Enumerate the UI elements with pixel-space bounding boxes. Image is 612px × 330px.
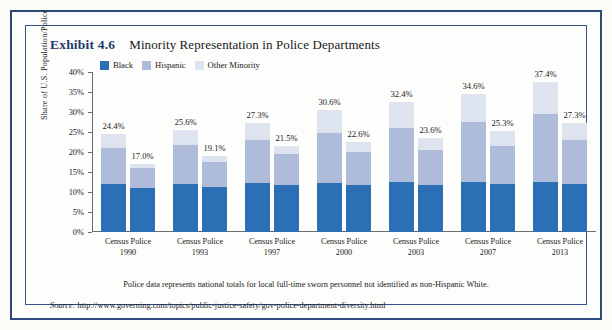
bar-census-2013[interactable] (533, 82, 558, 232)
bar-value-label: 25.3% (491, 118, 513, 128)
legend-swatch-icon (100, 61, 109, 70)
bar-value-label: 19.1% (203, 143, 225, 153)
exhibit-title: Minority Representation in Police Depart… (129, 37, 380, 52)
y-axis-tick-label: 5% (46, 208, 84, 217)
bar-segment-hispanic (418, 150, 443, 185)
plot-area: 24.4%17.0%25.6%19.1%27.3%21.5%30.6%22.6%… (92, 72, 596, 232)
bar-segment-hispanic (317, 133, 342, 183)
x-axis-year: 1997 (249, 247, 295, 258)
bar-value-label: 25.6% (174, 117, 196, 127)
bar-groups: 24.4%17.0%25.6%19.1%27.3%21.5%30.6%22.6%… (92, 72, 596, 232)
y-axis-tick-mark (88, 72, 92, 73)
y-axis-tick-label: 30% (46, 108, 84, 117)
bar-police-2003[interactable] (418, 138, 443, 232)
x-axis-group-label: Census Police2013 (537, 236, 583, 258)
y-axis-tick-mark (88, 132, 92, 133)
y-axis-tick-label: 10% (46, 188, 84, 197)
chart-note: Police data represents national totals f… (26, 280, 586, 289)
bar-police-1993[interactable] (202, 156, 227, 232)
y-axis-tick-label: 15% (46, 168, 84, 177)
source-line: Source: http://www.governing.com/topics/… (50, 301, 386, 310)
bar-value-label: 30.6% (318, 97, 340, 107)
bar-segment-hispanic (461, 122, 486, 182)
bar-value-label: 23.6% (419, 125, 441, 135)
x-axis-categories: Census Police (393, 236, 439, 247)
y-axis-tick-mark (88, 232, 92, 233)
bar-census-1997[interactable] (245, 123, 270, 232)
chart-legend: BlackHispanicOther Minority (100, 60, 260, 70)
bar-segment-other (130, 164, 155, 168)
bar-segment-black (173, 184, 198, 232)
y-axis-tick-label: 20% (46, 148, 84, 157)
bar-segment-black (461, 182, 486, 232)
bar-segment-hispanic (490, 146, 515, 184)
x-axis-group-label: Census Police2003 (393, 236, 439, 258)
bar-segment-other (274, 146, 299, 154)
bar-segment-black (562, 184, 587, 232)
bar-census-1993[interactable] (173, 130, 198, 232)
bar-census-2000[interactable] (317, 110, 342, 232)
x-axis-categories: Census Police (249, 236, 295, 247)
bar-value-label: 34.6% (462, 81, 484, 91)
bar-segment-black (533, 182, 558, 232)
bar-police-2000[interactable] (346, 142, 371, 232)
bar-segment-other (562, 123, 587, 140)
bar-segment-hispanic (173, 145, 198, 183)
bar-police-1997[interactable] (274, 146, 299, 232)
bar-segment-other (461, 94, 486, 122)
bar-segment-black (274, 185, 299, 232)
bar-police-2013[interactable] (562, 123, 587, 232)
x-axis-group-label: Census Police1990 (105, 236, 151, 258)
y-axis-tick-mark (88, 212, 92, 213)
legend-item-other-minority: Other Minority (195, 60, 260, 70)
bar-value-label: 32.4% (390, 89, 412, 99)
exhibit-number: Exhibit 4.6 (50, 37, 115, 52)
x-axis-categories: Census Police (177, 236, 223, 247)
bar-segment-black (389, 182, 414, 232)
y-axis-tick-mark (88, 172, 92, 173)
bar-segment-hispanic (101, 148, 126, 184)
bar-segment-hispanic (389, 128, 414, 183)
chart: Share of U.S. Population/Police BlackHis… (26, 60, 610, 275)
legend-swatch-icon (195, 61, 204, 70)
bar-segment-black (202, 187, 227, 232)
bar-police-1990[interactable] (130, 164, 155, 232)
y-axis-label: Share of U.S. Population/Police (40, 0, 49, 120)
bar-segment-other (101, 134, 126, 148)
x-axis-year: 2003 (393, 247, 439, 258)
x-axis-group-label: Census Police1993 (177, 236, 223, 258)
y-axis-tick-label: 0% (46, 228, 84, 237)
bar-segment-hispanic (245, 140, 270, 183)
bar-segment-hispanic (202, 162, 227, 187)
bar-value-label: 27.3% (563, 110, 585, 120)
bar-police-2007[interactable] (490, 131, 515, 232)
bar-value-label: 21.5% (275, 133, 297, 143)
bar-segment-black (245, 183, 270, 232)
bar-segment-hispanic (274, 154, 299, 185)
legend-label: Other Minority (208, 60, 260, 70)
bar-census-2007[interactable] (461, 94, 486, 232)
x-axis-year: 2000 (321, 247, 367, 258)
exhibit-frame: Exhibit 4.6 Minority Representation in P… (10, 10, 602, 320)
bar-segment-other (202, 156, 227, 162)
bar-value-label: 27.3% (246, 110, 268, 120)
bar-value-label: 17.0% (131, 151, 153, 161)
y-axis-tick-mark (88, 112, 92, 113)
legend-label: Black (113, 60, 133, 70)
bar-segment-hispanic (130, 168, 155, 188)
source-label: Source: (50, 301, 76, 310)
exhibit-header: Exhibit 4.6 Minority Representation in P… (50, 35, 380, 53)
bar-segment-black (418, 185, 443, 232)
bar-segment-other (533, 82, 558, 114)
bar-segment-other (173, 130, 198, 146)
y-axis-tick-mark (88, 92, 92, 93)
bar-census-2003[interactable] (389, 102, 414, 232)
exhibit-page: Exhibit 4.6 Minority Representation in P… (0, 0, 612, 330)
bar-segment-black (490, 184, 515, 232)
legend-swatch-icon (142, 61, 151, 70)
bar-segment-black (346, 185, 371, 232)
bar-census-1990[interactable] (101, 134, 126, 232)
bar-segment-black (317, 183, 342, 232)
y-axis-tick-label: 40% (46, 68, 84, 77)
bar-value-label: 37.4% (534, 69, 556, 79)
